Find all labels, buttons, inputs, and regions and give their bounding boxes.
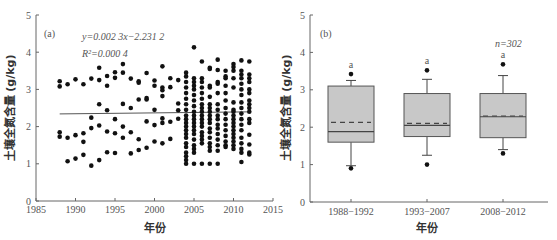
data-point (160, 64, 165, 69)
box (328, 86, 374, 142)
data-point (152, 108, 157, 113)
data-point (247, 109, 252, 114)
y-tick-label: 2 (300, 122, 305, 133)
data-point (136, 97, 141, 102)
data-point (239, 111, 244, 116)
data-point (215, 102, 220, 107)
data-point (239, 141, 244, 146)
data-point (192, 162, 197, 167)
data-point (192, 137, 197, 142)
outlier-point (425, 68, 430, 73)
data-point (215, 68, 220, 73)
data-point (65, 82, 70, 87)
y-tick-label: 3 (26, 84, 31, 95)
data-point (152, 123, 157, 128)
data-point (65, 159, 70, 164)
data-point (223, 111, 228, 116)
data-point (89, 126, 94, 131)
data-point (192, 150, 197, 155)
data-point (215, 57, 220, 62)
y-tick-label: 1 (300, 159, 305, 170)
data-point (208, 162, 213, 167)
data-point (144, 97, 149, 102)
y-tick-label: 4 (26, 47, 31, 58)
outlier-point (349, 72, 354, 77)
y-tick-label: 5 (300, 10, 305, 21)
data-point (57, 84, 62, 89)
data-point (121, 62, 126, 67)
y-tick-label: 0 (300, 197, 305, 208)
data-point (152, 83, 157, 88)
y-tick-label: 2 (26, 121, 31, 132)
data-point (121, 70, 126, 75)
data-point (184, 145, 189, 150)
data-point (200, 96, 205, 101)
data-point (168, 85, 173, 90)
data-point (89, 163, 94, 168)
data-point (239, 117, 244, 122)
data-point (105, 74, 110, 79)
data-point (160, 141, 165, 146)
data-point (97, 158, 102, 163)
data-point (136, 80, 141, 85)
data-point (247, 80, 252, 85)
data-point (231, 85, 236, 90)
data-point (105, 83, 110, 88)
data-point (144, 119, 149, 124)
data-point (129, 130, 134, 135)
data-point (215, 82, 220, 87)
data-point (192, 98, 197, 103)
data-point (239, 100, 244, 105)
significance-letter: a (501, 49, 506, 60)
figure: 0123451985199019952000200520102015(a)y=0… (0, 0, 557, 240)
category-label: 2008−2012 (480, 206, 526, 217)
data-point (57, 79, 62, 84)
sample-size: n=302 (495, 38, 522, 49)
data-point (81, 140, 86, 145)
data-point (247, 121, 252, 126)
y-axis-label: 土壤全氮含量 (g/kg) (3, 55, 17, 162)
boxplot-panel-b: 0123451988−1992a1993−2007a2008−2012a(b)n… (279, 10, 548, 236)
data-point (247, 142, 252, 147)
scatter-panel-a: 0123451985199019952000200520102015(a)y=0… (3, 10, 283, 236)
x-tick-label: 1985 (26, 204, 46, 215)
data-point (231, 69, 236, 74)
outlier-point (425, 162, 430, 167)
data-point (200, 85, 205, 90)
y-tick-label: 5 (26, 10, 31, 21)
data-point (184, 162, 189, 167)
data-point (239, 76, 244, 81)
data-point (192, 87, 197, 92)
data-point (239, 87, 244, 92)
data-point (239, 150, 244, 155)
data-point (176, 78, 181, 83)
x-tick-label: 2010 (224, 204, 244, 215)
data-point (89, 76, 94, 81)
significance-letter: a (349, 59, 354, 70)
box (404, 94, 450, 137)
data-point (73, 133, 78, 138)
data-point (192, 132, 197, 137)
data-point (223, 117, 228, 122)
data-point (223, 122, 228, 127)
data-point (152, 139, 157, 144)
data-point (231, 100, 236, 105)
outlier-point (349, 166, 354, 171)
panel-label-b: (b) (320, 28, 332, 40)
data-point (223, 91, 228, 96)
data-point (247, 132, 252, 137)
panel-label-a: (a) (44, 28, 55, 40)
data-point (121, 135, 126, 140)
data-point (129, 76, 134, 81)
data-point (105, 150, 110, 155)
data-point (208, 85, 213, 90)
data-point (105, 129, 110, 134)
data-point (208, 95, 213, 100)
significance-letter: a (425, 55, 430, 66)
data-point (184, 80, 189, 85)
data-point (215, 132, 220, 137)
data-point (223, 98, 228, 103)
data-point (223, 128, 228, 133)
data-point (136, 137, 141, 142)
data-point (223, 69, 228, 74)
